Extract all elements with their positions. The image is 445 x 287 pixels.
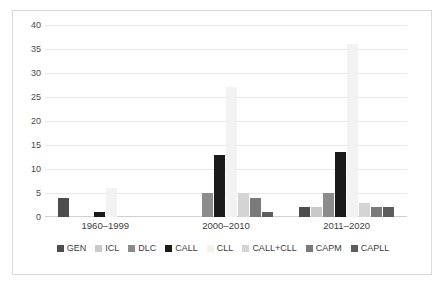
- legend-item-capm[interactable]: CAPM: [306, 243, 342, 253]
- bar-slot: [311, 25, 323, 217]
- legend-label: GEN: [67, 243, 87, 253]
- bar-cll[interactable]: [226, 87, 237, 217]
- bar-slot: [262, 25, 274, 217]
- y-axis-tick-label: 40: [17, 21, 41, 30]
- bar-chart-figure: 0510152025303540 1960–19992000–20102011–…: [12, 10, 432, 275]
- bar-dlc[interactable]: [202, 193, 213, 217]
- legend-swatch-icon: [207, 245, 214, 252]
- legend-label: CAPLL: [361, 243, 390, 253]
- y-axis-tick-label: 15: [17, 141, 41, 150]
- bar-slot: [202, 25, 214, 217]
- x-axis-tick-label: 2000–2010: [202, 219, 250, 233]
- x-axis-tick-label: 1960–1999: [82, 219, 130, 233]
- bar-dlc[interactable]: [323, 193, 334, 217]
- bar-slot: [359, 25, 371, 217]
- legend-swatch-icon: [57, 245, 64, 252]
- y-axis-tick-label: 35: [17, 45, 41, 54]
- legend-item-capll[interactable]: CAPLL: [351, 243, 390, 253]
- bar-call-plus-cll[interactable]: [238, 193, 249, 217]
- bar-group: [166, 25, 287, 217]
- bar-slot: [178, 25, 190, 217]
- legend-swatch-icon: [165, 245, 172, 252]
- legend-item-call[interactable]: CALL: [165, 243, 198, 253]
- bar-slot: [81, 25, 93, 217]
- legend-swatch-icon: [242, 245, 249, 252]
- bar-slot: [238, 25, 250, 217]
- legend-label: DLC: [138, 243, 156, 253]
- y-axis-tick-label: 25: [17, 93, 41, 102]
- legend-label: CALL: [175, 243, 198, 253]
- chart-legend: GENICLDLCCALLCLLCALL+CLLCAPMCAPLL: [13, 243, 433, 253]
- y-axis: 0510152025303540: [13, 25, 41, 217]
- bar-gen[interactable]: [58, 198, 69, 217]
- y-axis-tick-label: 10: [17, 165, 41, 174]
- bar-call-plus-cll[interactable]: [359, 203, 370, 217]
- bar-slot: [250, 25, 262, 217]
- bar-gen[interactable]: [299, 207, 310, 217]
- legend-swatch-icon: [95, 245, 102, 252]
- bar-slot: [93, 25, 105, 217]
- bar-group: [286, 25, 407, 217]
- legend-label: CLL: [217, 243, 234, 253]
- legend-swatch-icon: [306, 245, 313, 252]
- bar-call[interactable]: [94, 212, 105, 217]
- x-axis-tick-label: 2011–2020: [323, 219, 370, 233]
- y-axis-tick-label: 20: [17, 117, 41, 126]
- bar-slot: [190, 25, 202, 217]
- bar-slot: [323, 25, 335, 217]
- bar-cll[interactable]: [106, 188, 117, 217]
- bar-slot: [129, 25, 141, 217]
- legend-item-cll[interactable]: CLL: [207, 243, 234, 253]
- bar-slot: [141, 25, 153, 217]
- bar-slot: [371, 25, 383, 217]
- bar-group: [45, 25, 166, 217]
- legend-item-call-plus-cll[interactable]: CALL+CLL: [242, 243, 296, 253]
- bar-capll[interactable]: [262, 212, 273, 217]
- bar-icl[interactable]: [311, 207, 322, 217]
- y-axis-tick-label: 0: [17, 213, 41, 222]
- legend-swatch-icon: [351, 245, 358, 252]
- bar-slot: [383, 25, 395, 217]
- bar-slot: [105, 25, 117, 217]
- y-axis-tick-label: 5: [17, 189, 41, 198]
- bar-slot: [69, 25, 81, 217]
- bar-slot: [226, 25, 238, 217]
- bar-call[interactable]: [335, 152, 346, 217]
- plot-area: [45, 25, 407, 217]
- legend-item-icl[interactable]: ICL: [95, 243, 119, 253]
- bar-slot: [347, 25, 359, 217]
- legend-item-gen[interactable]: GEN: [57, 243, 87, 253]
- bar-slot: [57, 25, 69, 217]
- x-axis: 1960–19992000–20102011–2020: [45, 219, 407, 235]
- bar-slot: [299, 25, 311, 217]
- bar-call[interactable]: [214, 155, 225, 217]
- bar-slot: [214, 25, 226, 217]
- legend-label: ICL: [105, 243, 119, 253]
- bar-slot: [117, 25, 129, 217]
- bar-capm[interactable]: [371, 207, 382, 217]
- bar-slot: [335, 25, 347, 217]
- legend-item-dlc[interactable]: DLC: [128, 243, 156, 253]
- legend-label: CAPM: [316, 243, 342, 253]
- bar-capll[interactable]: [383, 207, 394, 217]
- legend-label: CALL+CLL: [252, 243, 296, 253]
- y-axis-tick-label: 30: [17, 69, 41, 78]
- legend-swatch-icon: [128, 245, 135, 252]
- bar-cll[interactable]: [347, 44, 358, 217]
- bar-capm[interactable]: [250, 198, 261, 217]
